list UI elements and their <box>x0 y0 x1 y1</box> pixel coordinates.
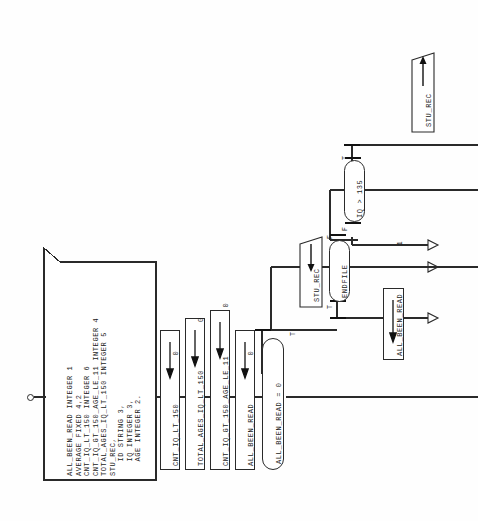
start-connector <box>27 394 34 401</box>
set-all-been-read-1-label: ALL_BEEN_READ 1 <box>396 241 405 356</box>
decision-iq-gt-135-false-label: F <box>342 227 349 231</box>
decision-iq-gt-135-label: IQ > 135 <box>356 180 365 218</box>
io-write-stu-rec-label: STU_REC <box>425 93 434 127</box>
decision-endfile-false-label: F <box>327 235 334 239</box>
init-all-been-read-label: ALL_BEEN_READ 0 <box>247 351 256 466</box>
io-read-stu-rec-label: STU_REC <box>313 268 322 302</box>
init-cnt-iq-lt-150-label: CNT_IQ_LT_150 0 <box>172 351 181 466</box>
decision-all-been-read-true-label: T <box>290 332 297 336</box>
declaration-box-text: ALL_BEEN_READ INTEGER 1 AVERAGE FIXED 4,… <box>66 266 143 476</box>
decision-endfile-label: ENDFILE <box>341 264 350 298</box>
flowchart-canvas: ALL_BEEN_READ INTEGER 1 AVERAGE FIXED 4,… <box>0 0 478 521</box>
init-cnt-iq-gt-150-age-le-11-label: CNT_IQ_GT_150_AGE_LE_11 0 <box>222 303 231 466</box>
decision-endfile-true-label: T <box>327 305 334 309</box>
decision-iq-gt-135-true-label: T <box>342 156 349 160</box>
init-total-ages-iq-lt-150-label: TOTAL_AGES_IQ_LT_150 0 <box>197 317 206 466</box>
decision-all-been-read-label: ALL_BEEN_READ = 0 <box>275 382 284 464</box>
